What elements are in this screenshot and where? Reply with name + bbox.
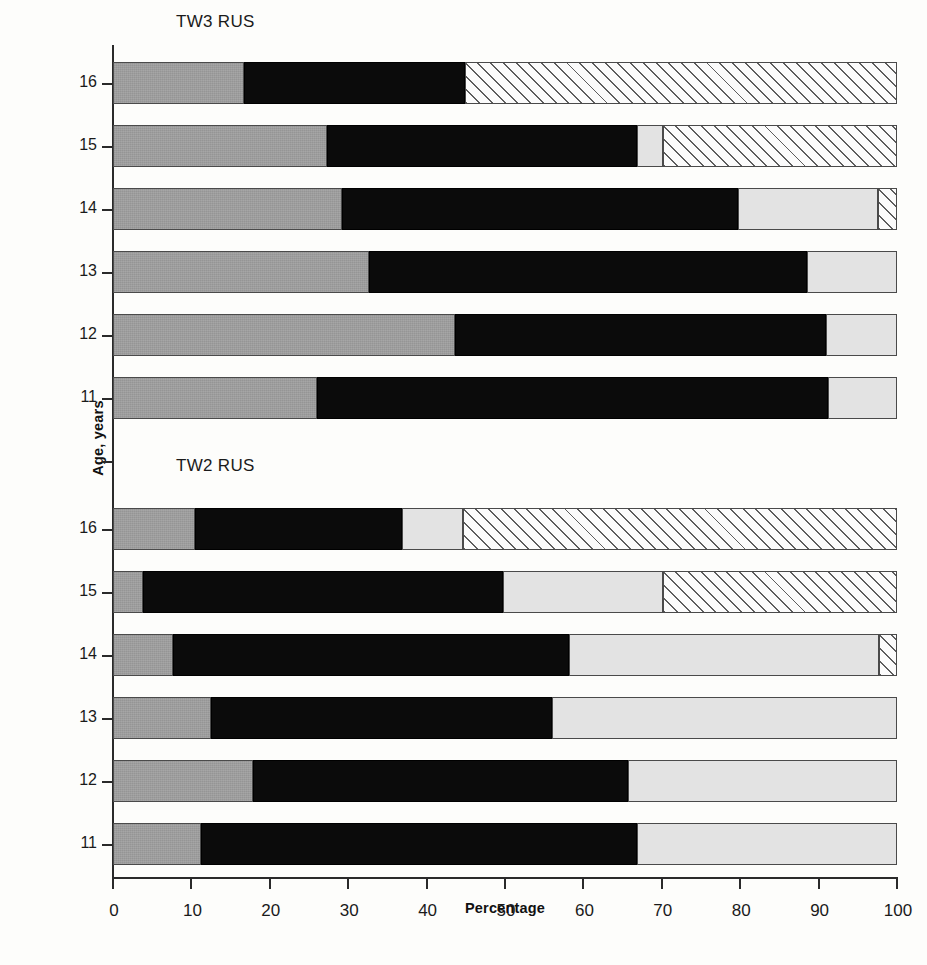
- bar-segment-gray: [113, 188, 342, 230]
- y-axis-label-14: 14: [55, 199, 97, 217]
- x-tick-100: [896, 878, 898, 889]
- bar-segment-gray: [113, 823, 201, 865]
- panel-title-tw2: TW2 RUS: [176, 456, 255, 476]
- bar-segment-hatched: [663, 571, 897, 613]
- bar-segment-light-gray: [402, 508, 462, 550]
- bar-row: [113, 125, 897, 167]
- bar-segment-gray: [113, 125, 327, 167]
- x-tick-70: [661, 878, 663, 889]
- bar-segment-gray: [113, 251, 369, 293]
- bar-segment-black: [201, 823, 638, 865]
- x-tick-40: [426, 878, 428, 889]
- y-axis-label-13: 13: [55, 708, 97, 726]
- bar-segment-black: [327, 125, 637, 167]
- y-tick: [102, 83, 113, 85]
- bar-segment-light-gray: [637, 125, 663, 167]
- bar-segment-hatched: [878, 188, 897, 230]
- bar-row: [113, 314, 897, 356]
- bar-segment-hatched: [465, 62, 897, 104]
- y-axis-label-12: 12: [55, 771, 97, 789]
- y-tick: [102, 529, 113, 531]
- bar-row: [113, 188, 897, 230]
- y-tick: [102, 655, 113, 657]
- y-axis-label-16: 16: [55, 73, 97, 91]
- bar-row: [113, 571, 897, 613]
- y-axis-label-15: 15: [55, 582, 97, 600]
- bar-segment-gray: [113, 697, 211, 739]
- y-axis-label-14: 14: [55, 645, 97, 663]
- y-tick: [102, 781, 113, 783]
- y-tick: [102, 398, 113, 400]
- bar-segment-gray: [113, 377, 317, 419]
- bar-segment-black: [369, 251, 806, 293]
- y-axis-label-16: 16: [55, 519, 97, 537]
- bar-row: [113, 697, 897, 739]
- bar-segment-light-gray: [826, 314, 897, 356]
- y-tick: [102, 209, 113, 211]
- bar-row: [113, 760, 897, 802]
- bar-segment-light-gray: [503, 571, 663, 613]
- panel-title-tw3: TW3 RUS: [176, 12, 255, 32]
- y-axis-label-12: 12: [55, 325, 97, 343]
- x-tick-90: [818, 878, 820, 889]
- y-axis-label-13: 13: [55, 262, 97, 280]
- bar-row: [113, 823, 897, 865]
- bar-segment-black: [253, 760, 628, 802]
- bar-segment-light-gray: [628, 760, 897, 802]
- bar-row: [113, 251, 897, 293]
- plot-area: TW3 RUS TW2 RUS 161514131211161514131211…: [113, 45, 897, 878]
- bar-segment-gray: [113, 62, 244, 104]
- bar-segment-black: [342, 188, 738, 230]
- bar-segment-black: [195, 508, 402, 550]
- bar-segment-light-gray: [738, 188, 878, 230]
- bar-segment-hatched: [463, 508, 897, 550]
- bar-segment-gray: [113, 760, 253, 802]
- bar-segment-hatched: [879, 634, 897, 676]
- bar-segment-gray: [113, 314, 455, 356]
- y-tick: [102, 272, 113, 274]
- bar-row: [113, 377, 897, 419]
- y-tick: [102, 844, 113, 846]
- bar-segment-light-gray: [807, 251, 897, 293]
- bar-segment-gray: [113, 571, 143, 613]
- bar-segment-black: [143, 571, 503, 613]
- y-axis-title: Age, years: [90, 338, 106, 538]
- x-tick-20: [269, 878, 271, 889]
- bar-row: [113, 62, 897, 104]
- bar-segment-light-gray: [569, 634, 879, 676]
- bar-segment-black: [173, 634, 569, 676]
- x-tick-10: [190, 878, 192, 889]
- bar-segment-gray: [113, 508, 195, 550]
- y-axis-label-11: 11: [55, 834, 97, 852]
- bar-segment-hatched: [663, 125, 897, 167]
- y-axis-label-15: 15: [55, 136, 97, 154]
- bar-segment-black: [455, 314, 827, 356]
- y-axis-label-11: 11: [55, 388, 97, 406]
- x-tick-30: [347, 878, 349, 889]
- x-axis-title: Percentage: [113, 900, 897, 916]
- stacked-bar-chart: Age, years TW3 RUS TW2 RUS 1615141312111…: [0, 0, 927, 965]
- bar-row: [113, 508, 897, 550]
- x-tick-80: [739, 878, 741, 889]
- bar-segment-light-gray: [828, 377, 897, 419]
- bar-row: [113, 634, 897, 676]
- y-tick: [102, 592, 113, 594]
- bar-segment-gray: [113, 634, 173, 676]
- bar-segment-black: [244, 62, 465, 104]
- y-tick: [102, 335, 113, 337]
- x-tick-0: [112, 878, 114, 889]
- x-tick-60: [582, 878, 584, 889]
- bar-segment-black: [211, 697, 552, 739]
- bar-segment-black: [317, 377, 828, 419]
- bar-segment-light-gray: [637, 823, 897, 865]
- bar-segment-light-gray: [552, 697, 897, 739]
- y-tick: [102, 718, 113, 720]
- x-tick-50: [504, 878, 506, 889]
- y-tick-panel-gap: [102, 461, 113, 463]
- y-tick: [102, 146, 113, 148]
